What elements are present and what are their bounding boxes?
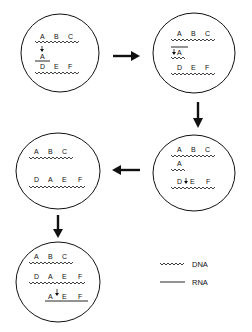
cell-3-dna-bottom bbox=[171, 187, 215, 189]
cell-5-dna-bottom bbox=[29, 282, 85, 284]
cell-5-label-c: C bbox=[62, 253, 67, 260]
cell-4-dna-bottom bbox=[29, 186, 85, 188]
cell-5-rna-label-f: F bbox=[78, 293, 82, 300]
cell-5-rna-label-a: A bbox=[48, 293, 53, 300]
cell-4-label-d: D bbox=[34, 176, 39, 183]
cell-1-label-d: D bbox=[40, 63, 45, 70]
arrow-down-icon-2 bbox=[53, 215, 63, 238]
cell-1-label-b: B bbox=[54, 33, 59, 40]
cell-3-dna-top bbox=[171, 155, 215, 157]
legend-dna-label: DNA bbox=[192, 260, 208, 269]
cell-1-label-f: F bbox=[68, 63, 72, 70]
cell-4-label-c: C bbox=[62, 148, 67, 155]
cell-1-rna-label: A bbox=[40, 53, 45, 60]
cell-1-arrowhead-icon bbox=[40, 49, 44, 52]
cell-2-label-b: B bbox=[191, 30, 196, 37]
cell-1-label-e: E bbox=[54, 63, 59, 70]
legend-dna-swatch bbox=[160, 263, 184, 265]
arrow-down-icon bbox=[193, 102, 203, 128]
cell-4-label-a: A bbox=[34, 148, 39, 155]
cell-2-ellipse bbox=[153, 13, 235, 93]
cell-2-label-e: E bbox=[191, 64, 196, 71]
cell-2-label-f: F bbox=[205, 64, 209, 71]
cell-3-label-d: D bbox=[177, 178, 182, 185]
cell-2-label-d: D bbox=[177, 64, 182, 71]
cell-5-label-a2: A bbox=[48, 273, 53, 280]
cell-2-dna-top bbox=[171, 39, 215, 41]
cell-3-label-e: E bbox=[190, 178, 195, 185]
cell-3-new-dna bbox=[171, 169, 185, 171]
cell-2-label-a: A bbox=[177, 30, 182, 37]
cell-3-label-c: C bbox=[205, 146, 210, 153]
cell-5-label-a: A bbox=[34, 253, 39, 260]
cell-2-arrowhead-icon bbox=[172, 52, 176, 55]
cell-4-label-f: F bbox=[78, 176, 82, 183]
cell-5-arrowhead-icon bbox=[55, 293, 59, 296]
arrow-right-icon bbox=[113, 51, 140, 61]
diagram-canvas: A B C A D E F A B C A D E F bbox=[0, 0, 252, 332]
cell-4-label-e: E bbox=[62, 176, 67, 183]
cell-3-label-a: A bbox=[177, 146, 182, 153]
legend: DNA RNA bbox=[160, 260, 208, 287]
cell-4-label-b: B bbox=[48, 148, 53, 155]
cell-3-arrowhead-icon bbox=[184, 181, 188, 184]
cell-1: A B C A D E F bbox=[21, 14, 99, 92]
cell-4-dna-top bbox=[29, 157, 73, 159]
cell-3: A B C A D E F bbox=[153, 135, 235, 211]
cell-5-ellipse bbox=[16, 242, 100, 322]
cell-4: A B C D A E F bbox=[16, 133, 100, 209]
cell-2-dna-bottom bbox=[171, 73, 215, 75]
cell-1-ellipse bbox=[21, 14, 99, 92]
cell-5: A B C D A E F A E F bbox=[16, 242, 100, 322]
cell-3-label-b: B bbox=[191, 146, 196, 153]
cell-5-rna-label-e: E bbox=[62, 293, 67, 300]
cell-3-new-dna-label: A bbox=[177, 160, 182, 167]
cell-1-label-a: A bbox=[40, 33, 45, 40]
arrow-left-icon bbox=[112, 165, 140, 175]
cell-3-label-f: F bbox=[206, 178, 210, 185]
cell-2-new-dna-label: A bbox=[177, 49, 182, 56]
cell-1-dna-top bbox=[35, 41, 79, 43]
cell-5-label-e: E bbox=[62, 273, 67, 280]
cell-2-label-c: C bbox=[205, 30, 210, 37]
cell-1-dna-bottom bbox=[35, 72, 79, 74]
legend-rna-label: RNA bbox=[192, 278, 208, 287]
cell-5-label-f: F bbox=[78, 273, 82, 280]
cell-5-label-d: D bbox=[34, 273, 39, 280]
cell-1-label-c: C bbox=[68, 33, 73, 40]
cell-5-label-b: B bbox=[48, 253, 53, 260]
cell-2-new-dna bbox=[171, 57, 185, 59]
cell-4-ellipse bbox=[16, 133, 100, 209]
cell-4-label-a2: A bbox=[48, 176, 53, 183]
cell-5-dna-top bbox=[29, 262, 73, 264]
cell-2: A B C A D E F bbox=[153, 13, 235, 93]
